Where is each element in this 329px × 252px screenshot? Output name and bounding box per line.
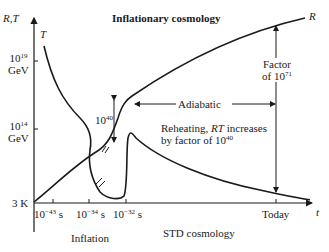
- scale-factor-curve: [34, 18, 305, 202]
- x-axis-label: t: [316, 206, 319, 218]
- r-curve-label: R: [309, 10, 316, 22]
- jump-label: 1040: [95, 114, 113, 126]
- t-curve-label: T: [40, 28, 46, 40]
- y-tick-1e19: 1019GeV: [8, 52, 29, 76]
- diagram-title: Inflationary cosmology: [112, 12, 220, 24]
- adiabatic-label: Adiabatic: [178, 98, 221, 110]
- y-tick-3k: 3 K: [12, 197, 28, 209]
- x-tick-1e-43: 10−43 s: [34, 208, 63, 220]
- reheating-label: Reheating, RT increasesby factor of 1040: [161, 122, 267, 146]
- y-tick-1e14: 1014GeV: [8, 120, 29, 144]
- std-cosmology-label: STD cosmology: [163, 227, 235, 239]
- factor-label: Factorof 1071: [262, 58, 292, 82]
- x-tick-today: Today: [262, 208, 289, 220]
- x-tick-1e-34: 10−34 s: [76, 208, 105, 220]
- inflation-label: Inflation: [71, 232, 109, 244]
- y-axis-label: R,T: [3, 12, 19, 24]
- x-tick-1e-32: 10−32 s: [113, 208, 142, 220]
